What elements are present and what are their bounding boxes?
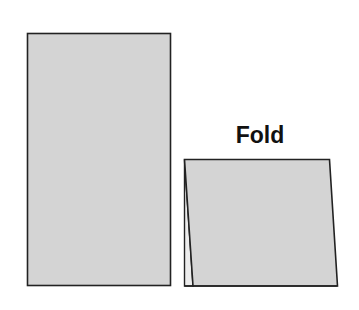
fold-diagram: Fold [0,0,359,310]
tent-card-front-panel [185,160,338,287]
fold-label: Fold [226,121,294,149]
diagram-canvas [0,0,359,310]
unfolded-sheet [28,34,171,286]
